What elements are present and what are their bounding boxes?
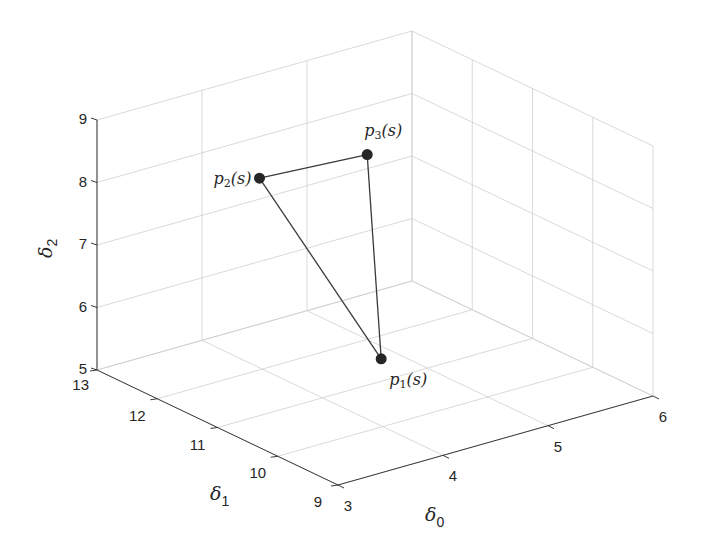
z-tick-label: 5 [79,360,87,377]
y-tick [331,485,338,486]
x-tick-label: 4 [449,467,457,484]
z-tick [91,368,97,370]
x-axis-label: δ0 [425,503,444,530]
x-axis-line [338,396,653,485]
y-tick [90,370,97,371]
y-axis-label: δ1 [210,482,229,509]
z-tick-label: 8 [79,173,87,190]
y-tick-label: 10 [249,464,266,481]
z-tick [91,118,97,120]
x-tick [653,396,659,399]
triangle-edge [260,155,368,179]
y-tick-label: 9 [314,493,322,510]
z-tick-label: 7 [79,235,87,252]
x-tick [338,485,344,488]
y-tick-label: 12 [129,407,146,424]
grid-lines [97,31,653,485]
tick-labels: 345691011121356789 [72,110,667,514]
data-point-marker [254,173,265,184]
triangle-edge [367,155,381,359]
x-tick-label: 3 [344,497,352,514]
x-tick [443,455,449,458]
z-tick-label: 6 [79,298,87,315]
triangle-edge [260,178,382,359]
x-tick-label: 6 [659,408,667,425]
x-tick [548,426,554,429]
point-label-p2: p2(s) [214,169,252,190]
y-tick-label: 13 [72,376,89,393]
y-tick [271,456,278,457]
z-tick-label: 9 [79,110,87,127]
data-point-marker [376,353,387,364]
z-tick [91,306,97,308]
point-label-p3: p3(s) [364,121,402,142]
floor-grid-y [278,367,593,456]
3d-triangle-plot: 345691011121356789 p1(s)p2(s)p3(s) δ2 δ1… [0,0,710,559]
x-tick-label: 5 [554,438,562,455]
y-tick [150,399,157,400]
y-tick [211,428,218,429]
data-point-marker [362,149,373,160]
y-tick-label: 11 [190,436,206,453]
z-tick [91,243,97,245]
z-axis-label: δ2 [34,239,60,258]
axis-labels: δ2 δ1 δ0 [34,239,444,530]
point-label-p1: p1(s) [389,370,427,391]
z-tick [91,181,97,183]
floor-grid-y [218,339,533,428]
axes [90,118,659,488]
